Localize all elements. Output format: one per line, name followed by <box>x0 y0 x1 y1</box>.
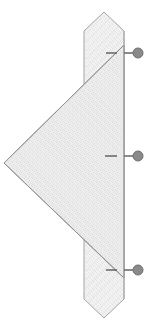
gusset-plate-hatch <box>4 45 124 278</box>
diagram-canvas <box>0 0 151 332</box>
marker-dot-bottom[interactable] <box>133 265 143 275</box>
triangular-gusset-plate <box>4 45 124 278</box>
structural-detail-drawing <box>0 0 151 332</box>
marker-dot-middle[interactable] <box>133 151 143 161</box>
marker-dot-top[interactable] <box>133 48 143 58</box>
